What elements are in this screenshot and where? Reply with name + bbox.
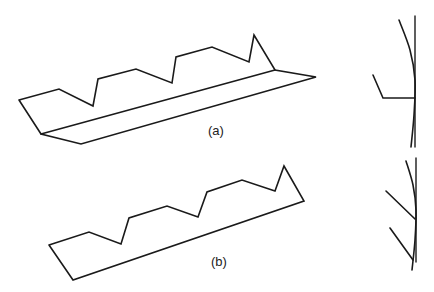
panel-b-label: (b) (211, 255, 227, 268)
panel-a-label: (a) (208, 124, 224, 137)
panel-b-profile-outline (49, 166, 304, 280)
panel-b (49, 158, 416, 280)
panel-a-side-arm (373, 75, 415, 98)
figure-canvas (0, 0, 434, 292)
panel-b-side-branch-2 (390, 228, 413, 260)
panel-a-side-curve (399, 20, 415, 147)
panel-b-side-branch-1 (386, 191, 415, 219)
panel-a-inner-edge (41, 70, 275, 134)
